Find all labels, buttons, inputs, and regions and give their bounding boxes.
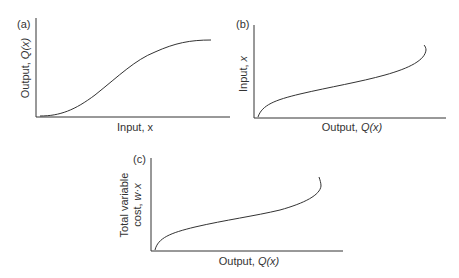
panel-b-label: (b) [236, 18, 249, 30]
panel-c-curve [155, 177, 321, 250]
panel-c-y-label-line2: cost, w·x [131, 183, 143, 227]
panel-c-y-label-line1: Total variable [118, 173, 130, 238]
panel-b-curve [258, 45, 426, 117]
panel-a-x-label: Input, x [117, 121, 154, 133]
panel-c-x-label: Output, Q(x) [219, 255, 280, 267]
panel-a-label: (a) [17, 18, 30, 30]
panel-a: (a) Input, x Output, Q(x) [17, 18, 230, 133]
panel-c-label: (c) [133, 153, 146, 165]
panel-a-curve [40, 40, 211, 116]
panel-b: (b) Output, Q(x) Input, x [236, 18, 446, 133]
panel-b-y-label: Input, x [237, 55, 249, 92]
diagram-canvas: (a) Input, x Output, Q(x) (b) Output, Q(… [0, 0, 459, 278]
panel-b-x-label: Output, Q(x) [322, 121, 383, 133]
panel-a-y-label: Output, Q(x) [19, 37, 31, 98]
panel-c: (c) Output, Q(x) Total variable cost, w·… [118, 153, 343, 267]
